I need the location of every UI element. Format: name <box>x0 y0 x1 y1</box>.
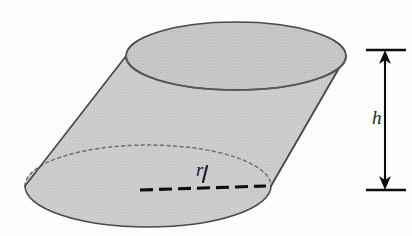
height-label: h <box>372 108 382 127</box>
oblique-cylinder-diagram <box>0 0 412 236</box>
radius-label: r <box>196 160 203 179</box>
figure-canvas: r h <box>0 0 412 236</box>
